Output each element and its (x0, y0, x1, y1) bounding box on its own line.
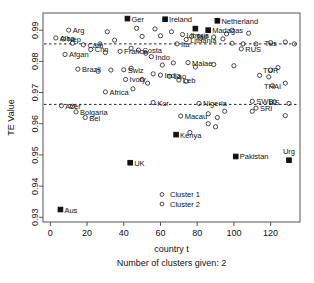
data-point-cluster2 (169, 30, 173, 34)
data-point-cluster2 (105, 30, 109, 34)
data-point-cluster1 (58, 207, 63, 212)
x-tick-label: 120 (263, 228, 278, 238)
chart-canvas: AusUKKenyaPakistanUrgIrelandNetherlandMa… (0, 0, 314, 283)
data-point-cluster2 (197, 101, 201, 105)
point-label: Ita (181, 40, 190, 49)
point-label: TUR (263, 66, 279, 75)
point-label: Azer (65, 102, 81, 111)
data-point-cluster2 (54, 36, 58, 40)
y-tick-label: 0.97 (30, 84, 40, 102)
point-label: Tus (265, 39, 277, 48)
point-label: Bel (89, 114, 100, 123)
data-point-cluster2 (81, 43, 85, 47)
data-point-cluster2 (67, 28, 71, 32)
data-point-cluster2 (76, 67, 80, 71)
point-label: Nigeria (203, 99, 228, 108)
data-point-cluster2 (223, 109, 227, 113)
data-point-cluster2 (186, 60, 190, 64)
data-point-cluster2 (112, 38, 116, 42)
legend-label: Cluster 2 (170, 200, 200, 209)
x-tick-label: 0 (48, 228, 53, 238)
data-point-cluster2 (149, 55, 153, 59)
data-point-cluster2 (171, 61, 175, 65)
data-point-cluster2 (124, 77, 128, 81)
point-label: Ivory (130, 75, 147, 84)
point-label: Ger (131, 15, 144, 24)
data-point-cluster2 (250, 99, 254, 103)
point-label: Urg (283, 147, 295, 156)
data-point-cluster2 (63, 52, 67, 56)
point-label: Afgan (69, 50, 89, 59)
data-point-cluster2 (135, 26, 139, 30)
data-point-cluster2 (215, 115, 219, 119)
point-label: Kenya (180, 131, 202, 140)
data-point-cluster2 (287, 101, 291, 105)
x-tick-label: 100 (226, 228, 241, 238)
point-label: UK (134, 159, 144, 168)
data-point-cluster2 (151, 100, 155, 104)
point-label: Madagas (212, 26, 243, 35)
data-point-cluster1 (215, 18, 220, 23)
data-point-cluster2 (230, 41, 234, 45)
data-point-cluster1 (174, 132, 179, 137)
data-point-cluster2 (239, 47, 243, 51)
chart-legend: Cluster 1Cluster 2 (160, 190, 200, 209)
data-point-cluster2 (254, 106, 258, 110)
data-point-cluster2 (213, 125, 217, 129)
point-label: Brazil (82, 65, 101, 74)
data-point-cluster2 (146, 81, 150, 85)
data-point-cluster2 (250, 109, 254, 113)
point-label: Kor (157, 99, 169, 108)
point-label: SRI (260, 104, 273, 113)
data-point-cluster2 (247, 31, 251, 35)
y-tick-label: 0.96 (30, 115, 40, 133)
x-tick-label: 80 (192, 228, 202, 238)
data-point-cluster2 (122, 68, 126, 72)
point-label: RUS (245, 45, 261, 54)
data-point-cluster2 (118, 49, 122, 53)
data-point-cluster1 (233, 154, 238, 159)
point-label: Indo (155, 53, 170, 62)
data-point-cluster2 (158, 34, 162, 38)
data-point-cluster2 (140, 34, 144, 38)
legend-marker-cluster1 (160, 193, 164, 197)
data-point-cluster2 (258, 73, 262, 77)
point-label: Lituania (190, 36, 217, 45)
data-point-cluster2 (267, 75, 271, 79)
data-point-cluster2 (153, 27, 157, 31)
data-point-cluster2 (109, 68, 113, 72)
y-tick-label: 0.93 (30, 209, 40, 227)
data-point-cluster2 (283, 81, 287, 85)
point-label: Netherland (221, 17, 258, 26)
y-tick-label: 0.95 (30, 146, 40, 164)
point-label: THAI (264, 82, 281, 91)
data-point-cluster2 (131, 87, 135, 91)
point-label: Africa (109, 88, 129, 97)
x-tick-label: 60 (155, 228, 165, 238)
scatter-plot-panel: AusUKKenyaPakistanUrgIrelandNetherlandMa… (0, 0, 314, 283)
point-label: Aus (64, 206, 77, 215)
data-point-cluster2 (221, 37, 225, 41)
data-point-cluster1 (128, 160, 133, 165)
data-point-cluster1 (163, 17, 168, 22)
point-label: Nep (67, 35, 81, 44)
data-point-cluster2 (179, 114, 183, 118)
data-point-cluster1 (287, 158, 292, 163)
data-point-cluster2 (232, 64, 236, 68)
legend-label: Cluster 1 (170, 190, 200, 199)
point-label: Chn (95, 45, 109, 54)
data-point-cluster2 (151, 72, 155, 76)
data-point-cluster2 (283, 114, 287, 118)
x-tick-label: 40 (119, 228, 129, 238)
legend-marker-cluster2 (160, 202, 164, 206)
point-label: Malae (192, 59, 212, 68)
data-point-cluster2 (160, 63, 164, 67)
y-tick-label: 0.94 (30, 177, 40, 195)
data-point-cluster2 (206, 122, 210, 126)
data-point-cluster1 (125, 16, 130, 21)
point-label: Ireland (169, 15, 192, 24)
y-tick-label: 0.99 (30, 21, 40, 39)
point-labels-layer: AusUKKenyaPakistanUrgIrelandNetherlandMa… (60, 15, 295, 215)
data-point-cluster2 (103, 90, 107, 94)
point-label: Pakistan (240, 152, 269, 161)
